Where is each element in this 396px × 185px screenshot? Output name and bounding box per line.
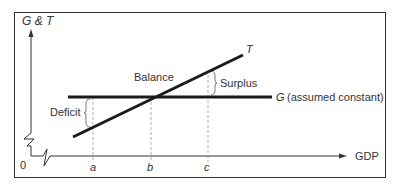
origin-label: 0 — [20, 160, 26, 171]
tax-line-label: T — [246, 44, 253, 55]
government-line-label: G — [276, 92, 285, 103]
arrow-right-icon — [339, 154, 347, 159]
axis-break-icon — [31, 149, 50, 166]
dashed-guides — [93, 70, 208, 162]
government-line-note: (assumed constant) — [287, 92, 384, 103]
deficit-label: Deficit — [50, 107, 81, 118]
surplus-label: Surplus — [220, 78, 257, 89]
y-axis — [24, 29, 34, 156]
deficit-brace-icon — [84, 99, 90, 127]
x-tick-a: a — [90, 162, 96, 173]
x-tick-b: b — [147, 162, 153, 173]
x-axis — [31, 149, 347, 166]
arrow-up-icon — [29, 29, 34, 37]
surplus-brace-icon — [211, 71, 217, 95]
balance-label: Balance — [134, 72, 174, 83]
y-axis-label: G & T — [22, 15, 53, 27]
x-tick-c: c — [204, 162, 210, 173]
x-axis-label: GDP — [355, 151, 379, 162]
axis-break-icon — [24, 133, 34, 156]
